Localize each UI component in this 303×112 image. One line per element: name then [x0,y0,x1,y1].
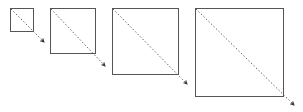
diagonal-arrow-icon [11,9,44,42]
diagonal-arrow-icon [113,9,187,84]
diagonal-arrow-icon [51,9,105,66]
square-2 [51,9,96,54]
square-group-2 [51,9,106,67]
square-group-3 [113,9,188,85]
square-group-1 [11,9,45,43]
diagonal-arrow-icon [196,9,294,105]
square-group-4 [196,9,295,106]
diagram-canvas [0,0,303,112]
